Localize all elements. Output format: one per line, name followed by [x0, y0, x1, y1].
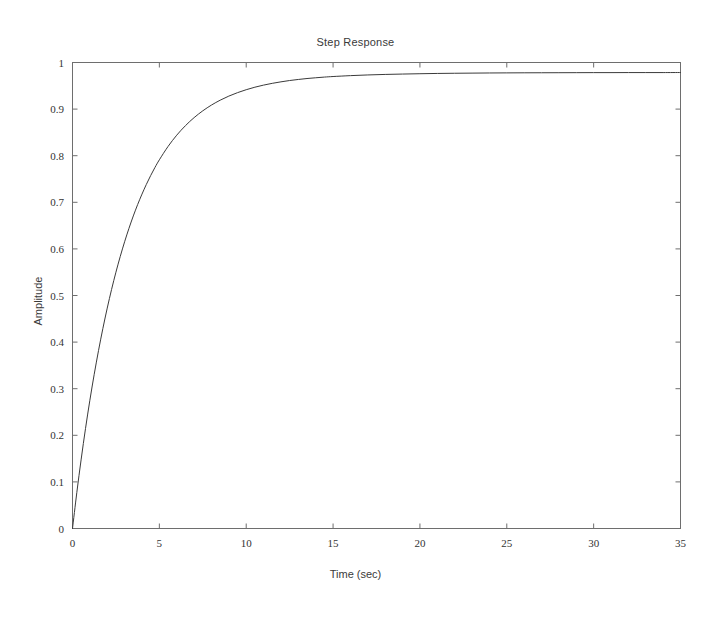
x-tick-label: 20 — [414, 537, 425, 549]
x-tick-label: 25 — [501, 537, 512, 549]
x-tick-label: 15 — [328, 537, 339, 549]
x-tick-label: 5 — [157, 537, 163, 549]
step-response-curve — [73, 73, 681, 529]
plot-border — [73, 63, 681, 529]
figure-canvas: Step Response 00.10.20.30.40.50.60.70.80… — [0, 0, 711, 622]
x-tick-label: 35 — [675, 537, 686, 549]
y-tick-label: 0 — [20, 523, 64, 535]
x-tick-label: 0 — [70, 537, 76, 549]
axis-ticks — [73, 63, 681, 529]
y-tick-label: 0.7 — [20, 196, 64, 208]
y-tick-label: 0.3 — [20, 383, 64, 395]
x-tick-label: 10 — [241, 537, 252, 549]
y-tick-label: 0.9 — [20, 103, 64, 115]
axes-box — [73, 63, 681, 529]
plot-area — [0, 0, 711, 622]
y-tick-label: 0.2 — [20, 429, 64, 441]
y-tick-label: 0.8 — [20, 150, 64, 162]
y-tick-label: 0.1 — [20, 476, 64, 488]
x-axis-label: Time (sec) — [0, 568, 711, 580]
y-tick-label: 1 — [20, 57, 64, 69]
y-axis-label: Amplitude — [32, 221, 44, 381]
x-tick-label: 30 — [588, 537, 599, 549]
